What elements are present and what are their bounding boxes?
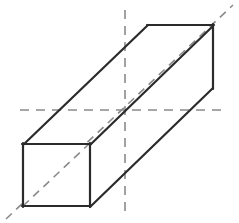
prism-diagram-svg: [0, 0, 239, 223]
geometry-figure-canvas: [0, 0, 239, 223]
